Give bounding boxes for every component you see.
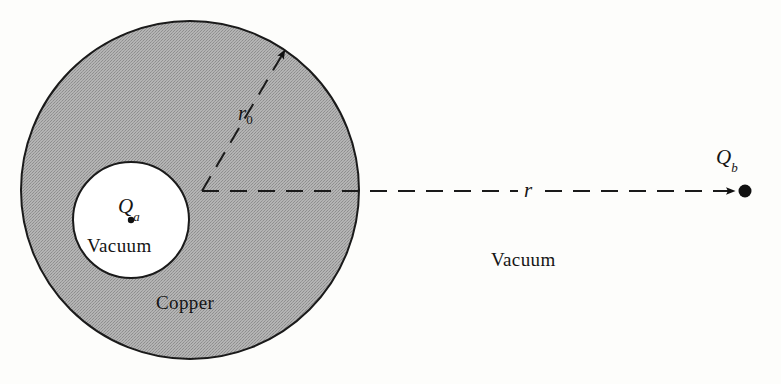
inner-charge-subscript: a [133, 209, 140, 224]
outer-charge-symbol: Q [716, 145, 731, 169]
inner-charge-label: Qa [118, 196, 140, 220]
shell-radius-symbol: r [238, 101, 246, 125]
shell-radius-subscript: 0 [246, 112, 253, 127]
charge-separation-label: r [524, 180, 532, 201]
physics-diagram-figure: Vacuum Copper Vacuum Qa Qb r0 r [0, 0, 781, 384]
outer-charge-subscript: b [731, 160, 738, 175]
exterior-material-label: Vacuum [491, 250, 556, 269]
cavity-material-label: Vacuum [87, 236, 152, 255]
outer-charge-label: Qb [716, 147, 738, 171]
diagram-canvas [0, 0, 781, 384]
inner-charge-symbol: Q [118, 194, 133, 218]
shell-radius-label: r0 [238, 103, 253, 124]
outer-charge-dot [739, 185, 752, 198]
shell-material-label: Copper [156, 293, 214, 312]
